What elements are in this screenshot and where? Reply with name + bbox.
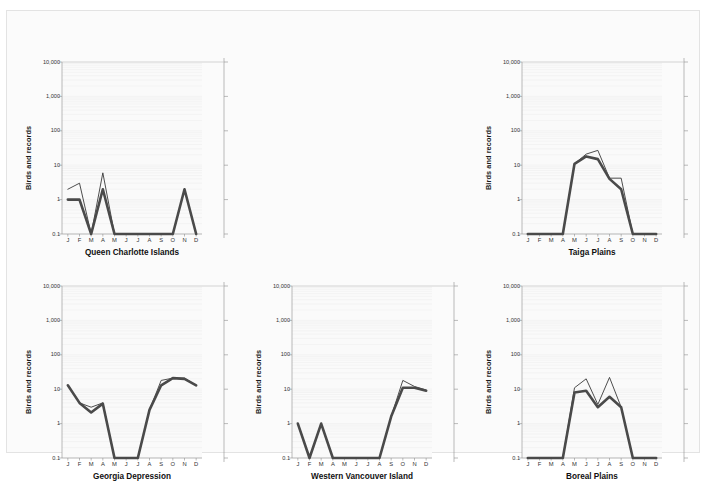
x-tick-label: D xyxy=(191,461,201,467)
x-tick-label: S xyxy=(156,461,166,467)
x-tick-label: J xyxy=(363,461,373,467)
x-tick-label: O xyxy=(168,461,178,467)
x-tick-label: S xyxy=(616,461,626,467)
x-tick-label: F xyxy=(75,237,85,243)
x-tick-label: J xyxy=(133,237,143,243)
x-tick-label: S xyxy=(616,237,626,243)
x-tick-label: J xyxy=(133,461,143,467)
y-tick-label: 10,000 xyxy=(490,59,520,65)
panel-title: Western Vancouver Island xyxy=(292,472,432,481)
x-tick-label: M xyxy=(570,237,580,243)
x-tick-label: J xyxy=(351,461,361,467)
x-tick-label: J xyxy=(593,237,603,243)
y-tick-label: 0.1 xyxy=(260,455,290,461)
panel-title: Taiga Plains xyxy=(522,248,662,257)
x-tick-label: J xyxy=(293,461,303,467)
x-tick-label: N xyxy=(180,461,190,467)
y-axis-label: Birds and records xyxy=(24,126,33,190)
x-tick-label: M xyxy=(546,237,556,243)
x-tick-label: A xyxy=(145,237,155,243)
y-tick-label: 1 xyxy=(30,420,60,426)
y-tick-label: 0.1 xyxy=(490,231,520,237)
y-tick-label: 100 xyxy=(30,351,60,357)
plot-svg xyxy=(62,286,248,472)
plot-svg xyxy=(292,286,478,472)
y-tick-label: 10,000 xyxy=(30,283,60,289)
x-tick-label: M xyxy=(110,461,120,467)
y-tick-label: 10 xyxy=(490,162,520,168)
x-tick-label: J xyxy=(121,237,131,243)
y-tick-label: 10 xyxy=(260,386,290,392)
y-axis-label: Birds and records xyxy=(484,350,493,414)
y-axis-label: Birds and records xyxy=(484,126,493,190)
x-tick-label: M xyxy=(110,237,120,243)
y-tick-label: 1 xyxy=(490,420,520,426)
x-tick-label: M xyxy=(570,461,580,467)
y-tick-label: 100 xyxy=(490,351,520,357)
y-tick-label: 100 xyxy=(490,127,520,133)
x-tick-label: F xyxy=(535,461,545,467)
y-tick-label: 0.1 xyxy=(30,231,60,237)
y-axis-label: Birds and records xyxy=(24,350,33,414)
x-tick-label: J xyxy=(63,461,73,467)
x-tick-label: O xyxy=(398,461,408,467)
x-tick-label: N xyxy=(640,237,650,243)
x-tick-label: M xyxy=(546,461,556,467)
x-tick-label: N xyxy=(410,461,420,467)
x-tick-label: A xyxy=(375,461,385,467)
plot-svg xyxy=(522,62,706,248)
y-tick-label: 10 xyxy=(30,162,60,168)
y-tick-label: 1,000 xyxy=(260,317,290,323)
x-tick-label: J xyxy=(581,237,591,243)
x-tick-label: O xyxy=(628,237,638,243)
x-tick-label: J xyxy=(523,237,533,243)
y-tick-label: 1 xyxy=(260,420,290,426)
y-tick-label: 10 xyxy=(490,386,520,392)
x-tick-label: M xyxy=(316,461,326,467)
x-tick-label: N xyxy=(180,237,190,243)
y-tick-label: 1,000 xyxy=(30,93,60,99)
plot-svg xyxy=(62,62,248,248)
y-tick-label: 1,000 xyxy=(490,317,520,323)
x-tick-label: M xyxy=(340,461,350,467)
x-tick-label: F xyxy=(75,461,85,467)
x-tick-label: D xyxy=(651,461,661,467)
y-tick-label: 10 xyxy=(30,386,60,392)
panel-title: Boreal Plains xyxy=(522,472,662,481)
x-tick-label: J xyxy=(523,461,533,467)
x-tick-label: A xyxy=(605,461,615,467)
x-tick-label: J xyxy=(593,461,603,467)
y-tick-label: 0.1 xyxy=(30,455,60,461)
x-tick-label: A xyxy=(328,461,338,467)
panel-title: Queen Charlotte Islands xyxy=(62,248,202,257)
y-tick-label: 10,000 xyxy=(30,59,60,65)
x-tick-label: A xyxy=(98,461,108,467)
x-tick-label: A xyxy=(558,461,568,467)
y-tick-label: 0.1 xyxy=(490,455,520,461)
y-tick-label: 100 xyxy=(30,127,60,133)
y-tick-label: 1,000 xyxy=(30,317,60,323)
x-tick-label: A xyxy=(605,237,615,243)
x-tick-label: F xyxy=(535,237,545,243)
x-tick-label: A xyxy=(98,237,108,243)
y-tick-label: 1 xyxy=(490,196,520,202)
x-tick-label: J xyxy=(121,461,131,467)
x-tick-label: D xyxy=(191,237,201,243)
y-tick-label: 100 xyxy=(260,351,290,357)
x-tick-label: O xyxy=(168,237,178,243)
x-tick-label: J xyxy=(63,237,73,243)
x-tick-label: J xyxy=(581,461,591,467)
y-tick-label: 1,000 xyxy=(490,93,520,99)
x-tick-label: O xyxy=(628,461,638,467)
x-tick-label: S xyxy=(386,461,396,467)
panel-title: Georgia Depression xyxy=(62,472,202,481)
x-tick-label: D xyxy=(651,237,661,243)
x-tick-label: F xyxy=(305,461,315,467)
x-tick-label: M xyxy=(86,237,96,243)
y-tick-label: 10,000 xyxy=(260,283,290,289)
y-tick-label: 10,000 xyxy=(490,283,520,289)
x-tick-label: M xyxy=(86,461,96,467)
x-tick-label: A xyxy=(145,461,155,467)
y-axis-label: Birds and records xyxy=(254,350,263,414)
y-tick-label: 1 xyxy=(30,196,60,202)
